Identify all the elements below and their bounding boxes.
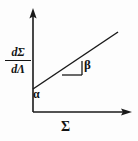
data-line-linear bbox=[33, 32, 118, 89]
y-axis-label-denominator: dΛ bbox=[4, 62, 32, 75]
y-axis-label: dΣ dΛ bbox=[4, 46, 32, 75]
beta-angle-label: β bbox=[84, 58, 91, 71]
figure-container: dΣ dΛ Σ α β bbox=[0, 0, 138, 141]
fraction-bar-divider bbox=[5, 60, 31, 61]
y-axis-label-numerator: dΣ bbox=[4, 46, 32, 59]
x-axis-label: Σ bbox=[61, 120, 70, 134]
alpha-angle-label: α bbox=[33, 88, 40, 100]
